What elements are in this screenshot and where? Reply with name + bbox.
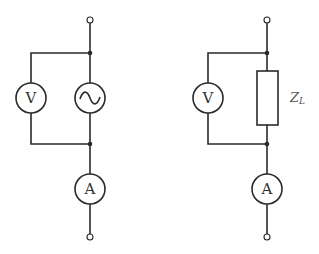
right-top-junction [265,51,270,56]
left-ammeter: A [75,174,105,204]
left-voltmeter-bottom-branch [31,113,90,144]
impedance-label: ZL [289,90,305,106]
ac-source [75,83,105,113]
left-bottom-junction [88,142,93,147]
right-ammeter: A [252,174,282,204]
right-top-terminal [264,17,270,23]
left-circuit: V A [16,17,105,240]
right-voltmeter: V [193,83,223,113]
impedance-subscript: L [298,96,305,106]
right-circuit: V ZL A [193,17,305,240]
left-voltmeter-top-branch [31,53,90,83]
voltmeter-label: V [25,89,38,107]
ammeter-label: A [84,180,96,198]
voltmeter-label: V [202,89,215,107]
circuit-diagram: V A V ZL [0,0,319,254]
load-impedance: ZL [257,71,305,125]
right-bottom-junction [265,142,270,147]
left-top-junction [88,51,93,56]
left-voltmeter: V [16,83,46,113]
ammeter-label: A [261,180,273,198]
left-top-terminal [87,17,93,23]
right-bottom-terminal [264,234,270,240]
impedance-box-icon [257,71,278,125]
left-bottom-terminal [87,234,93,240]
